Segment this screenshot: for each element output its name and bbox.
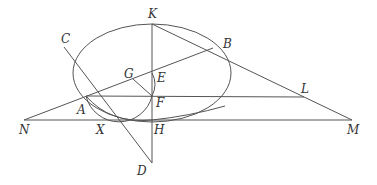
- label-X: X: [95, 123, 105, 137]
- label-K: K: [147, 7, 158, 21]
- line-GF: [133, 79, 152, 96]
- line-NB: [24, 48, 213, 120]
- diagram-canvas: K B C G E A F L N X H M D: [0, 0, 377, 185]
- label-F: F: [155, 96, 165, 110]
- label-A: A: [76, 103, 86, 117]
- label-C: C: [61, 32, 70, 46]
- label-D: D: [136, 164, 147, 178]
- line-AL: [86, 96, 304, 97]
- label-G: G: [124, 67, 134, 81]
- geometry-diagram: K B C G E A F L N X H M D: [0, 0, 377, 185]
- label-N: N: [18, 123, 30, 137]
- label-L: L: [300, 82, 309, 96]
- label-B: B: [222, 37, 232, 51]
- line-KM: [152, 24, 352, 120]
- label-E: E: [156, 71, 166, 85]
- label-H: H: [153, 123, 165, 137]
- label-M: M: [346, 123, 360, 137]
